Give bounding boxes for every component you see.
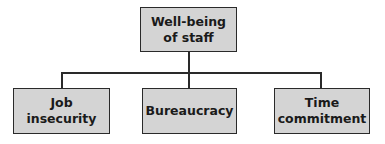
root-node-label-line2: of staff (151, 30, 226, 46)
child-node-label-line1: Time (278, 95, 367, 111)
connector-middle-down (188, 72, 190, 88)
child-node-label-line2: commitment (278, 111, 367, 127)
child-node-label-line1: Job (27, 95, 97, 111)
child-node-time-commitment: Time commitment (274, 88, 370, 134)
root-node-label-line1: Well-being (151, 14, 226, 30)
connector-root-down (188, 51, 190, 73)
root-node-wellbeing-of-staff: Well-being of staff (140, 7, 237, 52)
child-node-job-insecurity: Job insecurity (13, 88, 110, 134)
connector-left-down (61, 72, 63, 88)
child-node-bureaucracy: Bureaucracy (142, 88, 237, 134)
child-node-label-line2: insecurity (27, 111, 97, 127)
child-node-label-line1: Bureaucracy (146, 103, 234, 119)
connector-horizontal (61, 72, 322, 74)
connector-right-down (320, 72, 322, 88)
